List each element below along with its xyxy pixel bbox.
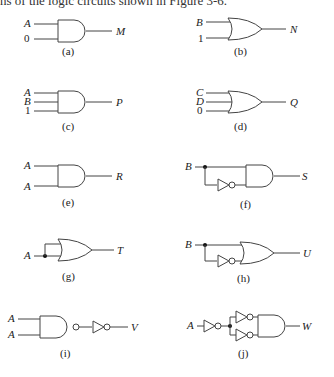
inverter-bubble (247, 332, 253, 338)
not-gate (218, 179, 229, 191)
not-gate (218, 255, 229, 267)
circuit-j: A W (j) (186, 311, 312, 360)
not-gate (236, 311, 247, 323)
circuit-d: C D 0 Q (d) (195, 86, 298, 133)
caption: (i) (60, 347, 71, 360)
and-gate (58, 91, 85, 113)
input-label: A (23, 180, 31, 192)
input-label: 0 (24, 32, 30, 44)
inverter-bubble (215, 323, 221, 329)
inverter-bubble (104, 324, 110, 330)
caption: (a) (62, 45, 75, 58)
input-label: B (196, 16, 203, 28)
output-label: U (303, 247, 312, 259)
caption: (b) (234, 45, 247, 58)
input-label: A (186, 319, 194, 331)
output-label: S (302, 170, 308, 182)
nand-gate (40, 316, 67, 338)
and-gate (246, 165, 273, 187)
output-label: P (115, 96, 123, 108)
output-label: T (117, 244, 124, 256)
input-label: A (23, 17, 31, 29)
inverter-bubble (247, 314, 253, 320)
input-label: 1 (25, 104, 31, 116)
caption: (e) (62, 196, 75, 209)
input-label: A (7, 328, 15, 340)
circuit-a: A 0 M (a) (23, 17, 126, 58)
input-label: A (23, 159, 31, 171)
and-gate (258, 315, 285, 337)
circuit-f: B S (f) (185, 160, 308, 211)
or-gate (228, 91, 262, 113)
output-label: R (115, 170, 123, 182)
input-label: 1 (198, 32, 204, 44)
circuit-h: B U (h) (185, 238, 312, 285)
circuit-i: A A V (i) (7, 312, 139, 360)
caption: (c) (62, 120, 75, 133)
and-gate (58, 165, 85, 187)
output-label: Q (290, 96, 298, 108)
caption: (g) (62, 270, 75, 283)
input-label: A (23, 249, 31, 261)
input-label: A (7, 312, 15, 324)
output-label: M (115, 25, 126, 37)
output-label: N (289, 23, 298, 35)
input-label: B (185, 238, 192, 250)
or-gate (228, 18, 262, 40)
circuit-c: A B 1 P (c) (23, 86, 123, 133)
caption: (j) (238, 347, 249, 360)
not-gate (236, 329, 247, 341)
not-gate (93, 321, 104, 333)
input-label: B (185, 160, 192, 172)
circuit-g: A T (g) (23, 239, 124, 283)
caption: (f) (240, 198, 251, 211)
input-label: 0 (197, 104, 203, 116)
inverter-bubble (229, 182, 235, 188)
or-gate (240, 242, 274, 264)
output-label: V (131, 321, 139, 333)
circuit-e: A A R (e) (23, 159, 123, 209)
circuit-b: B 1 N (b) (196, 16, 298, 58)
inverter-bubble (229, 258, 235, 264)
logic-circuits-figure: A 0 M (a) B 1 N (b) A B 1 P (c) C D 0 (0, 0, 334, 377)
inverter-bubble (73, 324, 79, 330)
not-gate (204, 320, 215, 332)
caption: (d) (234, 120, 247, 133)
caption: (h) (237, 272, 250, 285)
or-gate (58, 239, 92, 261)
output-label: W (302, 320, 312, 332)
and-gate (58, 20, 85, 42)
